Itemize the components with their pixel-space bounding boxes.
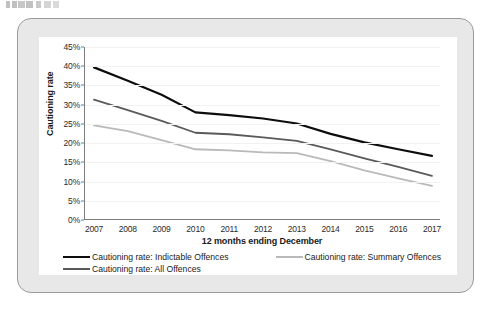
legend-item-all-offences[interactable]: Cautioning rate: All Offences [63, 264, 201, 274]
legend-label: Cautioning rate: All Offences [92, 264, 201, 274]
gridline [85, 143, 440, 144]
y-tick-label: 5% [68, 196, 80, 206]
y-tick-mark [81, 104, 84, 105]
y-tick-label: 45% [64, 42, 80, 52]
y-tick-mark [81, 123, 84, 124]
y-tick-label: 15% [64, 157, 80, 167]
x-tick-label: 2013 [288, 224, 306, 234]
y-tick-mark [81, 85, 84, 86]
legend-item-summary-offences[interactable]: Cautioning rate: Summary Offences [276, 252, 445, 262]
y-tick-label: 35% [64, 80, 80, 90]
x-axis-line [84, 219, 440, 220]
y-tick-label: 20% [64, 138, 80, 148]
x-tick-label: 2015 [355, 224, 373, 234]
x-tick-label: 2010 [186, 224, 204, 234]
x-tick-label: 2016 [389, 224, 407, 234]
chart-legend: Cautioning rate: Indictable Offences Cau… [63, 251, 445, 275]
y-tick-mark [81, 162, 84, 163]
y-tick-mark [81, 47, 84, 48]
y-axis-line [84, 47, 85, 220]
legend-row-2: Cautioning rate: All Offences [63, 263, 445, 275]
legend-label: Cautioning rate: Indictable Offences [92, 252, 228, 262]
gridline [85, 182, 440, 183]
series-line [94, 125, 432, 185]
y-tick-label: 10% [64, 177, 80, 187]
x-tick-label: 2009 [153, 224, 171, 234]
y-tick-label: 40% [64, 61, 80, 71]
y-tick-mark [81, 66, 84, 67]
x-axis-title: 12 months ending December [84, 236, 440, 246]
y-axis-title: Cautioning rate [45, 71, 55, 136]
x-tick-label: 2008 [119, 224, 137, 234]
legend-row-1: Cautioning rate: Indictable Offences Cau… [63, 251, 445, 263]
x-tick-label: 2017 [423, 224, 441, 234]
gridline [85, 85, 440, 86]
chart-panel: Cautioning rate 0%5%10%15%20%25%30%35%40… [39, 37, 457, 275]
y-tick-label: 25% [64, 119, 80, 129]
gridline [85, 105, 440, 106]
x-tick-label: 2007 [85, 224, 103, 234]
legend-swatch-icon [63, 268, 90, 270]
plot-area: 0%5%10%15%20%25%30%35%40%45% 20072008200… [84, 47, 440, 220]
gridline [85, 124, 440, 125]
y-tick-mark [81, 143, 84, 144]
y-tick-mark [81, 220, 84, 221]
y-tick-label: 0% [68, 215, 80, 225]
x-tick-label: 2011 [220, 224, 237, 234]
x-tick-label: 2012 [254, 224, 272, 234]
y-tick-mark [81, 181, 84, 182]
y-tick-mark [81, 200, 84, 201]
chart-figure-frame: Cautioning rate 0%5%10%15%20%25%30%35%40… [17, 18, 474, 293]
legend-swatch-icon [63, 256, 90, 258]
series-lines [84, 47, 440, 220]
gridline [85, 47, 440, 48]
legend-label: Cautioning rate: Summary Offences [305, 252, 441, 262]
gridline [85, 201, 440, 202]
legend-swatch-icon [276, 256, 303, 258]
x-tick-label: 2014 [322, 224, 340, 234]
page-top-artifact [6, 1, 68, 8]
y-tick-label: 30% [64, 100, 80, 110]
gridline [85, 66, 440, 67]
series-line [94, 100, 432, 176]
legend-item-indictable-offences[interactable]: Cautioning rate: Indictable Offences [63, 252, 228, 262]
gridline [85, 162, 440, 163]
